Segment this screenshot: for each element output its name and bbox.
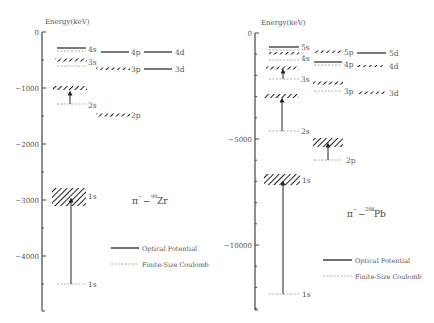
y-ticks <box>255 33 259 309</box>
svg-text:3d: 3d <box>175 65 185 74</box>
svg-text:5p: 5p <box>344 48 354 57</box>
nucleus-label: π − − 208 Pb <box>347 206 386 219</box>
svg-text:3p: 3p <box>344 87 354 96</box>
legend: Optical Potential Finite-Size Coulomb <box>111 245 209 269</box>
svg-text:1s: 1s <box>88 280 97 289</box>
s-levels: 4s 3s 2s 1s 1s <box>52 45 97 289</box>
svg-text:4d: 4d <box>389 62 399 71</box>
tick-label: −3000 <box>15 197 39 205</box>
p-levels: 4p 3p 2p <box>96 48 141 120</box>
svg-text:4s: 4s <box>88 45 97 54</box>
svg-text:1s: 1s <box>302 290 311 299</box>
tick-label: −1000 <box>15 85 39 93</box>
y-axis-title: Energy(keV) <box>45 18 90 26</box>
svg-text:2s: 2s <box>88 101 97 110</box>
tick-label: 0 <box>248 30 252 38</box>
svg-text:4p: 4p <box>344 60 354 69</box>
svg-text:−: − <box>138 193 142 199</box>
svg-text:1s: 1s <box>88 192 97 201</box>
svg-text:4d: 4d <box>175 48 185 57</box>
svg-text:3p: 3p <box>131 65 141 74</box>
svg-text:1s: 1s <box>302 176 311 185</box>
level-diagram-figure: Energy(keV) 0 −1000 −2000 −3000 −4000 4s <box>0 0 434 323</box>
tick-label: −2000 <box>15 141 39 149</box>
d-levels: 4d 3d <box>144 48 185 74</box>
tick-label: −4000 <box>15 253 39 261</box>
s-levels: 5s 4s 3s 2s 1s 1s <box>264 43 311 299</box>
svg-text:−: − <box>143 196 151 206</box>
tick-label: 0 <box>35 29 39 37</box>
svg-text:2p: 2p <box>346 156 356 165</box>
nucleus-label: π − − 90 Zr <box>132 193 168 206</box>
legend: Optical Potential Finite-Size Coulomb <box>323 257 422 281</box>
legend-coulomb-label: Finite-Size Coulomb <box>142 261 209 269</box>
svg-text:4s: 4s <box>301 54 310 63</box>
y-axis-title: Energy(keV) <box>261 19 306 27</box>
legend-optical-label: Optical Potential <box>142 245 197 253</box>
svg-text:4p: 4p <box>131 48 141 57</box>
pb-panel: Energy(keV) 0 −5000 −10000 5s <box>224 19 422 310</box>
svg-text:3s: 3s <box>88 58 97 67</box>
tick-label: −10000 <box>224 242 252 250</box>
svg-text:3d: 3d <box>389 89 399 98</box>
d-levels: 5d 4d 3d <box>357 49 399 98</box>
zr-panel: Energy(keV) 0 −1000 −2000 −3000 −4000 4s <box>15 18 208 311</box>
svg-text:Pb: Pb <box>374 209 386 219</box>
svg-text:2s: 2s <box>301 127 310 136</box>
tick-label: −5000 <box>228 136 252 144</box>
svg-text:5d: 5d <box>389 49 399 58</box>
svg-text:−: − <box>353 206 357 212</box>
svg-text:3s: 3s <box>301 75 310 84</box>
svg-text:5s: 5s <box>301 43 310 52</box>
svg-text:Zr: Zr <box>157 196 168 206</box>
legend-coulomb-label: Finite-Size Coulomb <box>355 273 422 281</box>
legend-optical-label: Optical Potential <box>355 257 410 265</box>
p-levels: 5p 4p 3p 2p <box>313 48 356 165</box>
svg-text:2p: 2p <box>131 111 141 120</box>
